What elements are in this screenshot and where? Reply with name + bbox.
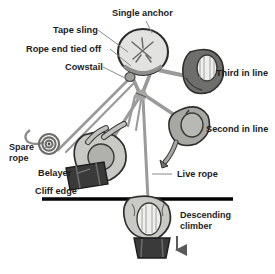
second-helmet xyxy=(181,113,203,137)
descending-pack xyxy=(134,238,170,258)
sling-knot xyxy=(125,73,135,82)
label-spare-rope-line2: rope xyxy=(9,153,29,163)
label-cowstail: Cowstail xyxy=(65,62,103,72)
label-belayer: Belayer xyxy=(38,168,72,178)
label-descending-line2: climber xyxy=(180,221,213,231)
label-third-in-line: Third in line xyxy=(216,68,268,78)
label-single-anchor: Single anchor xyxy=(112,8,173,18)
descending-helmet xyxy=(137,203,161,235)
label-rope-end-tied-off: Rope end tied off xyxy=(26,44,102,54)
climbing-anchor-diagram: Single anchor Tape sling Rope end tied o… xyxy=(0,0,275,274)
label-live-rope: Live rope xyxy=(177,169,218,179)
diagram-canvas: Single anchor Tape sling Rope end tied o… xyxy=(0,0,275,274)
central-knot xyxy=(135,90,147,101)
label-second-in-line: Second in line xyxy=(206,124,268,134)
label-spare-rope-line1: Spare xyxy=(9,142,34,152)
label-tape-sling: Tape sling xyxy=(53,25,98,35)
label-cliff-edge: Cliff edge xyxy=(35,186,77,196)
label-descending-line1: Descending xyxy=(180,210,231,220)
